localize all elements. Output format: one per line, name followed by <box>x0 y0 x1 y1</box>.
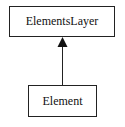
elementslayer-label: ElementsLayer <box>26 14 99 29</box>
arrowhead-icon <box>58 37 68 47</box>
element-label: Element <box>43 94 83 109</box>
elementslayer-node: ElementsLayer <box>9 6 115 37</box>
element-node: Element <box>28 85 97 117</box>
